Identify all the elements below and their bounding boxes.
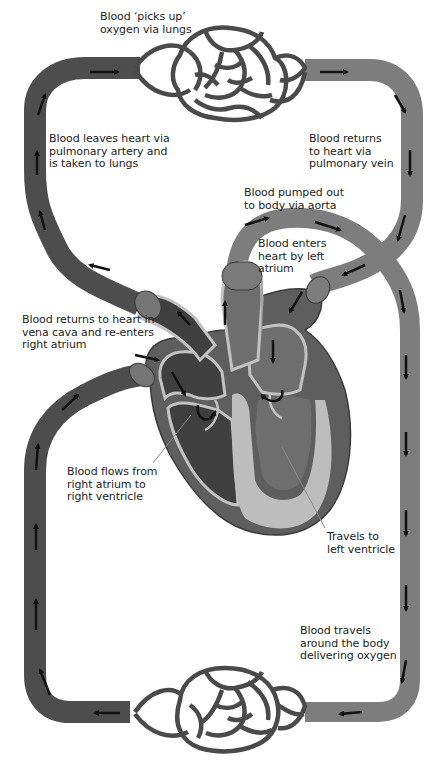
heart-cross-section [125, 262, 351, 535]
vena-cava-vessel [35, 375, 140, 712]
body-capillary-network [135, 668, 305, 751]
pulmonary-artery-vessel [35, 68, 140, 305]
label-aorta: Blood pumped out to body via aorta [244, 187, 344, 212]
label-left-ventricle: Travels to left ventricle [327, 531, 395, 556]
aorta-cuff [222, 262, 262, 290]
lung-capillary-network [135, 28, 305, 120]
label-right-ventricle: Blood flows from right atrium to right v… [67, 466, 157, 504]
label-pulmonary-vein: Blood returns to heart via pulmonary vei… [309, 133, 394, 171]
left-ventricle [255, 396, 312, 490]
label-left-atrium: Blood enters heart by left atrium [258, 238, 326, 276]
label-lungs-oxygen: Blood ‘picks up’ oxygen via lungs [100, 11, 192, 36]
label-body-oxygen: Blood travels around the body delivering… [300, 625, 397, 663]
label-pulmonary-artery: Blood leaves heart via pulmonary artery … [49, 133, 170, 171]
label-vena-cava: Blood returns to heart in vena cava and … [22, 314, 154, 352]
